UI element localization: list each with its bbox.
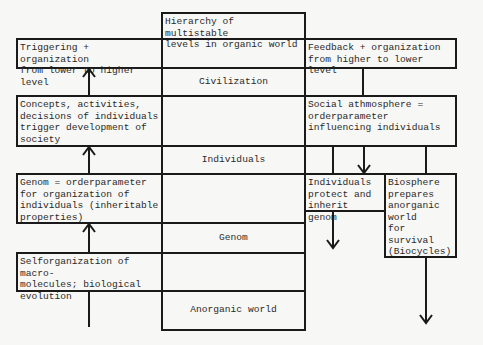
left-header-triggering: Triggering + organization from lower to … [16,38,163,69]
left-box-concepts: Concepts, activities, decisions of indiv… [16,95,163,147]
left-box-genom: Genom = orderparameter for organization … [16,173,163,224]
hierarchy-spacer-2 [161,95,306,147]
hierarchy-spacer-1 [161,38,306,69]
down-arrowhead-individuals [327,240,339,248]
up-arrowhead-3 [83,224,95,232]
up-arrowhead-2 [83,147,95,155]
level-anorganic-world: Anorganic world [161,290,306,331]
level-civilization: Civilization [161,67,306,97]
right-header-feedback: Feedback + organization from higher to l… [304,38,457,69]
hierarchy-title: Hierarchy of multistable levels in organ… [161,12,306,40]
left-box-selforganization: Selforganization of macro- molecules; bi… [16,252,163,292]
down-arrowhead-biosphere [420,315,432,323]
right-box-social-athmosphere: Social athmosphere = orderparameter infl… [304,95,457,147]
down-arrowhead-center [358,165,370,173]
right-box-biosphere: Biosphere prepares anorganic world for s… [384,173,457,258]
level-genom: Genom [161,222,306,254]
level-individuals: Individuals [161,145,306,175]
hierarchy-spacer-4 [161,252,306,292]
hierarchy-spacer-3 [161,173,306,224]
right-box-individuals-protect: Individuals protect and inherit genom [304,173,386,212]
